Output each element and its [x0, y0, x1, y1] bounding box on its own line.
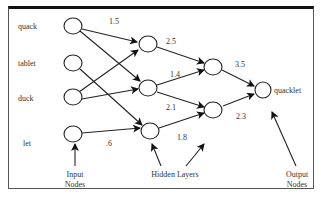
weight-label: .6: [106, 139, 112, 148]
input-label-tablet: tablet: [18, 59, 36, 68]
annotation-input-line1: Input: [60, 170, 90, 179]
edge-quack-h1b: [80, 31, 140, 81]
edge-tablet-h1c: [80, 69, 142, 125]
input-node-duck: [64, 89, 82, 105]
annotation-output-line2: Nodes: [282, 180, 312, 189]
weight-label: 3.5: [235, 60, 245, 69]
annotation-input-line2: Nodes: [60, 180, 90, 189]
edge-h1c-h2b: [159, 113, 204, 128]
edge-h2a-out: [222, 70, 254, 86]
edge-let-h1c: [82, 128, 140, 133]
weight-label: 2.5: [166, 37, 176, 46]
edge-h1b-h2a: [157, 70, 204, 85]
annotation-hidden-layers: Hidden Layers: [145, 170, 205, 179]
edge-h1b-h2b: [157, 92, 204, 107]
arrow-hidden-1: [152, 144, 161, 166]
input-label-let: let: [23, 139, 31, 148]
weight-label: 2.1: [166, 103, 176, 112]
edge-duck-h1b: [82, 89, 138, 99]
hidden2-node-b: [204, 102, 222, 118]
output-node-quacklet: [255, 82, 271, 98]
weight-label: 1.8: [177, 133, 187, 142]
edge-h1a-h2a: [157, 47, 204, 63]
input-label-quack: quack: [18, 22, 37, 31]
hidden2-node-a: [204, 59, 222, 75]
hidden1-node-a: [139, 36, 157, 52]
hidden1-node-b: [139, 80, 157, 96]
edge-duck-h1a: [79, 50, 138, 92]
weight-label: 1.4: [170, 70, 180, 79]
weight-label: 2.3: [236, 112, 246, 121]
hidden1-node-c: [141, 123, 159, 139]
input-node-tablet: [64, 55, 82, 71]
edge-h2b-out: [223, 94, 254, 106]
input-node-let: [64, 126, 82, 142]
weight-label: 1.5: [109, 17, 119, 26]
input-node-quack: [64, 18, 82, 34]
annotation-output-line1: Output: [282, 170, 312, 179]
input-label-duck: duck: [18, 94, 34, 103]
output-label-quacklet: quacklet: [274, 86, 301, 95]
arrow-hidden-2: [186, 144, 204, 166]
arrow-output-nodes: [272, 112, 296, 166]
